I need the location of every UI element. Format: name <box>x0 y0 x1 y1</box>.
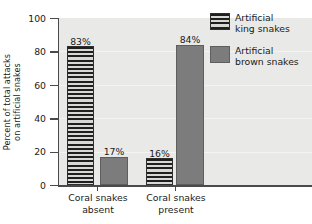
y-tick-mark-40 <box>50 118 58 119</box>
bar-present-brown-snakes: 84% <box>176 45 204 185</box>
bar-absent-king-snakes: 83% <box>67 46 94 185</box>
x-tick-mark-absent <box>97 186 98 191</box>
bar-absent-brown-snakes: 17% <box>100 157 128 185</box>
y-tick-mark-80 <box>50 51 58 52</box>
bar-chart: Percent of total attacks on artificial s… <box>0 0 312 224</box>
x-axis-label-present-line2: present <box>131 204 221 216</box>
x-axis-label-present: Coral snakes present <box>131 192 221 215</box>
y-tick-label-100: 100 <box>20 14 46 23</box>
y-axis-title-line2: on artificial snakes <box>12 53 22 149</box>
y-tick-label-0: 0 <box>20 181 46 190</box>
x-axis-label-present-line1: Coral snakes <box>131 192 221 204</box>
legend-label-brown-snakes-line1: Artificial <box>235 45 299 56</box>
y-axis-title-line1: Percent of total attacks <box>2 53 12 149</box>
y-tick-label-80: 80 <box>20 47 46 56</box>
y-tick-mark-0 <box>50 185 58 186</box>
bar-value-label: 83% <box>70 37 91 46</box>
bar-value-label: 17% <box>104 147 125 156</box>
legend: Artificial king snakes Artificial brown … <box>210 12 310 78</box>
x-axis-label-absent: Coral snakes absent <box>53 192 143 215</box>
y-tick-mark-100 <box>50 18 58 19</box>
legend-swatch-striped-icon <box>210 13 230 30</box>
legend-swatch-solid-icon <box>210 46 230 63</box>
bar-value-label: 84% <box>180 35 201 44</box>
legend-label-brown-snakes-line2: brown snakes <box>235 56 299 67</box>
x-axis-label-absent-line1: Coral snakes <box>53 192 143 204</box>
y-tick-label-40: 40 <box>20 114 46 123</box>
x-tick-mark-present <box>175 186 176 191</box>
y-tick-label-60: 60 <box>20 81 46 90</box>
legend-label-king-snakes-line2: king snakes <box>235 23 290 34</box>
y-tick-label-20: 20 <box>20 147 46 156</box>
legend-entry-king-snakes: Artificial king snakes <box>210 12 310 34</box>
y-tick-mark-60 <box>50 85 58 86</box>
bar-value-label: 16% <box>149 149 170 158</box>
x-axis-label-absent-line2: absent <box>53 204 143 216</box>
y-tick-mark-20 <box>50 152 58 153</box>
y-axis-title: Percent of total attacks on artificial s… <box>0 18 24 185</box>
legend-entry-brown-snakes: Artificial brown snakes <box>210 45 310 67</box>
bar-present-king-snakes: 16% <box>146 158 173 185</box>
legend-label-king-snakes-line1: Artificial <box>235 12 290 23</box>
